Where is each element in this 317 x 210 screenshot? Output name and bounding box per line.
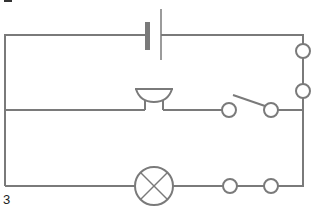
terminal-icon	[296, 44, 310, 58]
terminal-icon	[222, 103, 236, 117]
switch-lever-icon	[233, 95, 265, 106]
terminal-icon	[264, 103, 278, 117]
terminal-icon	[264, 179, 278, 193]
circuit-diagram	[0, 0, 317, 210]
figure-label: 3	[3, 193, 10, 206]
lamp-icon	[135, 167, 173, 205]
terminal-icon	[223, 179, 237, 193]
battery-icon	[148, 9, 162, 60]
terminal-icon	[296, 84, 310, 98]
buzzer-icon	[135, 89, 173, 110]
